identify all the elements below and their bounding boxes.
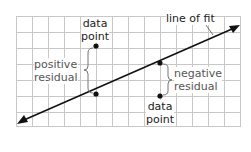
data-point-label-bottom: data point (146, 100, 174, 126)
positive-residual-brace (84, 48, 93, 93)
data-point-label-top: data point (81, 17, 109, 43)
data-point-label-bottom-line2: point (146, 113, 174, 126)
data-point-above (93, 43, 98, 48)
data-point-label-bottom-line1: data (146, 100, 174, 113)
positive-residual-label-line2: residual (34, 71, 78, 84)
line-point-right (157, 60, 162, 65)
data-point-below (157, 93, 162, 98)
positive-residual-label-line1: positive (34, 58, 78, 71)
line-of-fit-label: line of fit (166, 12, 215, 25)
positive-residual-label: positive residual (34, 58, 78, 84)
data-point-label-top-line2: point (81, 30, 109, 43)
residuals-diagram: line of fit data point positive residual… (0, 0, 251, 152)
negative-residual-brace (163, 64, 172, 95)
negative-residual-label-line2: residual (174, 80, 222, 93)
arrowhead-lower-left-icon (17, 115, 28, 124)
negative-residual-label: negative residual (174, 67, 222, 93)
line-point-left (93, 91, 98, 96)
data-point-label-top-line1: data (81, 17, 109, 30)
negative-residual-label-line1: negative (174, 67, 222, 80)
line-of-fit-leader (206, 25, 213, 35)
